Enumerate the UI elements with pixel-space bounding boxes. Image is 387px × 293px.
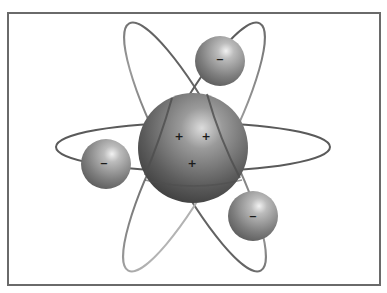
proton-charge-3: +	[187, 157, 196, 170]
electron-top: −	[195, 36, 245, 86]
electron-charge-bottom-right: −	[249, 211, 257, 222]
nucleus	[138, 93, 248, 203]
electron-charge-left: −	[100, 158, 108, 169]
electron-left: −	[81, 139, 131, 189]
proton-charge-2: +	[201, 130, 210, 143]
electron-bottom-right: −	[228, 191, 278, 241]
atom-diagram: + + + − − −	[0, 0, 387, 293]
electron-charge-top: −	[216, 54, 224, 65]
proton-charge-1: +	[174, 130, 183, 143]
